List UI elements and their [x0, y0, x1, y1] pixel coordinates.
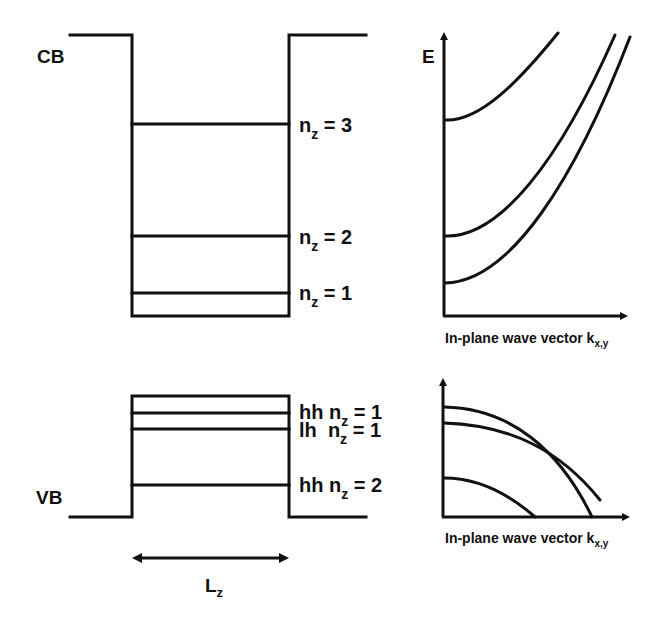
well-width-indicator: Lz — [140, 558, 281, 600]
vb-hh2-curve — [444, 478, 535, 517]
vb-k-axis-label: In-plane wave vector kx,y — [445, 530, 609, 549]
cb-well-profile — [70, 35, 366, 316]
vb-dispersion-plot: In-plane wave vector kx,y — [442, 382, 626, 549]
vb-level-hh2-label: hh nz = 2 — [299, 474, 382, 502]
cb-dispersion-plot: E In-plane wave vector kx,y — [422, 33, 630, 349]
cb-level-2-label: nz = 2 — [299, 226, 352, 254]
vb-level-lh1-label: lh nz = 1 — [299, 419, 381, 447]
vb-label: VB — [36, 487, 62, 508]
cb-subband-1-curve — [445, 37, 630, 283]
well-width-label: Lz — [205, 575, 224, 600]
cb-subband-3-curve — [445, 33, 558, 120]
cb-label: CB — [37, 46, 64, 67]
quantum-well-diagram: CB nz = 3 nz = 2 nz = 1 VB hh nz = 1 lh … — [0, 0, 665, 619]
energy-axis-label: E — [422, 46, 435, 67]
cb-k-axis-label: In-plane wave vector kx,y — [445, 330, 609, 349]
valence-band-well: VB hh nz = 1 lh nz = 1 hh nz = 2 — [36, 396, 382, 517]
conduction-band-well: CB nz = 3 nz = 2 nz = 1 — [37, 35, 366, 316]
cb-level-1-label: nz = 1 — [299, 282, 352, 310]
cb-level-3-label: nz = 3 — [299, 114, 352, 142]
